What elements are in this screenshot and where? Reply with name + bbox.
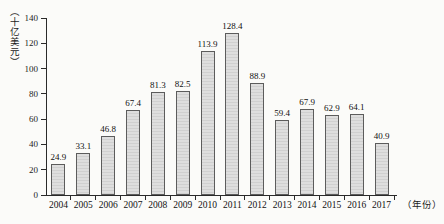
bar-2016	[350, 114, 364, 195]
bar-2014	[300, 109, 314, 195]
bar-value-label: 88.9	[240, 71, 274, 81]
bar-value-label: 64.1	[340, 102, 374, 112]
plot-area: 020406080100120140 24.933.146.867.481.38…	[46, 18, 394, 195]
bar-2009	[176, 91, 190, 195]
bar-value-label: 40.9	[365, 131, 399, 141]
y-tick-mark	[41, 119, 46, 120]
bar-2004	[51, 164, 65, 195]
bar-value-label: 128.4	[215, 21, 249, 31]
bar-value-label: 59.4	[265, 108, 299, 118]
bar-chart: （十亿美元） 020406080100120140 24.933.146.867…	[0, 0, 444, 224]
x-category-label: 2017	[365, 200, 399, 211]
y-tick-label: 120	[6, 38, 38, 48]
bar-2010	[201, 51, 215, 195]
y-tick-label: 100	[6, 64, 38, 74]
bar-value-label: 67.4	[116, 98, 150, 108]
bar-2013	[275, 120, 289, 195]
y-tick-mark	[41, 43, 46, 44]
y-tick-mark	[41, 93, 46, 94]
bar-2007	[126, 110, 140, 195]
bar-value-label: 33.1	[66, 141, 100, 151]
bar-value-label: 24.9	[41, 152, 75, 162]
bar-2017	[375, 143, 389, 195]
y-tick-mark	[41, 195, 46, 196]
bar-2012	[250, 83, 264, 195]
x-axis-unit-label: （年份）	[402, 200, 442, 211]
bar-2015	[325, 115, 339, 195]
y-axis	[46, 18, 47, 196]
bar-value-label: 46.8	[91, 124, 125, 134]
y-tick-label: 0	[6, 190, 38, 200]
bar-2008	[151, 92, 165, 195]
bar-2005	[76, 153, 90, 195]
y-tick-mark	[41, 68, 46, 69]
y-tick-label: 40	[6, 139, 38, 149]
y-tick-mark	[41, 169, 46, 170]
y-tick-label: 80	[6, 89, 38, 99]
bar-2006	[101, 136, 115, 195]
y-tick-mark	[41, 18, 46, 19]
y-tick-label: 140	[6, 13, 38, 23]
bar-value-label: 82.5	[166, 79, 200, 89]
y-tick-label: 60	[6, 114, 38, 124]
y-tick-mark	[41, 144, 46, 145]
bar-value-label: 113.9	[191, 39, 225, 49]
bar-2011	[225, 33, 239, 195]
y-tick-label: 20	[6, 165, 38, 175]
